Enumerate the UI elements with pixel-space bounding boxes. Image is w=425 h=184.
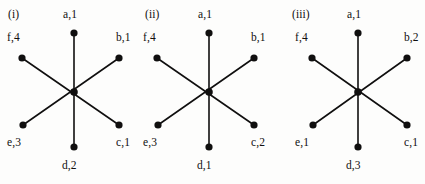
- vertex-dot-e: [19, 121, 26, 128]
- vertex-label-e: e,1: [295, 136, 309, 148]
- vertex-label-e: e,3: [7, 136, 21, 148]
- vertex-label-f: f,4: [295, 31, 308, 43]
- panel-roman-label-i: (i): [8, 8, 19, 20]
- vertex-dot-b: [403, 54, 410, 61]
- vertex-dot-d: [70, 143, 77, 150]
- vertex-label-f: f,4: [7, 31, 20, 43]
- vertex-dot-f: [153, 54, 160, 61]
- graph-drawing-iii: [283, 0, 425, 184]
- vertex-label-f: f,4: [143, 31, 156, 43]
- vertex-dot-a: [205, 29, 212, 36]
- vertex-dot-f: [18, 54, 25, 61]
- vertex-label-a: a,1: [347, 8, 361, 20]
- vertex-label-b: b,2: [404, 31, 419, 43]
- vertex-label-c: c,2: [251, 136, 265, 148]
- vertex-dot-e: [309, 121, 316, 128]
- vertex-label-c: c,1: [116, 136, 130, 148]
- panel-roman-label-iii: (iii): [292, 8, 310, 20]
- vertex-label-a: a,1: [198, 8, 212, 20]
- vertex-label-b: b,1: [116, 31, 131, 43]
- vertex-dot-e: [154, 121, 161, 128]
- panel-roman-label-ii: (ii): [145, 8, 159, 20]
- vertex-dot-a: [70, 29, 77, 36]
- graph-drawing-ii: [143, 0, 285, 184]
- vertex-dot-b: [250, 54, 257, 61]
- vertex-label-c: c,1: [404, 136, 418, 148]
- vertex-dot-d: [205, 143, 212, 150]
- graph-panel-ii: (ii) a,1 b,1 c,2 d,1 e,3 f,4: [143, 0, 285, 184]
- vertex-dot-c: [250, 121, 257, 128]
- vertex-label-b: b,1: [251, 31, 266, 43]
- vertex-dot-b: [115, 54, 122, 61]
- graph-drawing-i: [0, 0, 142, 184]
- vertex-label-d: d,3: [346, 159, 361, 171]
- vertex-dot-center: [70, 88, 78, 96]
- graph-panel-iii: (iii) a,1 b,2 c,1 d,3 e,1 f,4: [283, 0, 425, 184]
- vertex-label-d: d,2: [62, 159, 77, 171]
- vertex-dot-center: [205, 88, 213, 96]
- vertex-dot-d: [354, 143, 361, 150]
- vertex-dot-center: [354, 88, 362, 96]
- vertex-label-e: e,3: [143, 136, 157, 148]
- vertex-dot-a: [354, 29, 361, 36]
- vertex-dot-f: [308, 54, 315, 61]
- vertex-dot-c: [115, 121, 122, 128]
- graph-panel-i: (i) a,1 b,1 c,1 d,2 e,3 f,4: [0, 0, 142, 184]
- vertex-label-a: a,1: [63, 8, 77, 20]
- vertex-label-d: d,1: [197, 159, 212, 171]
- vertex-dot-c: [403, 121, 410, 128]
- three-star-graphs-figure: (i) a,1 b,1 c,1 d,2 e,3 f,4 (ii): [0, 0, 425, 184]
